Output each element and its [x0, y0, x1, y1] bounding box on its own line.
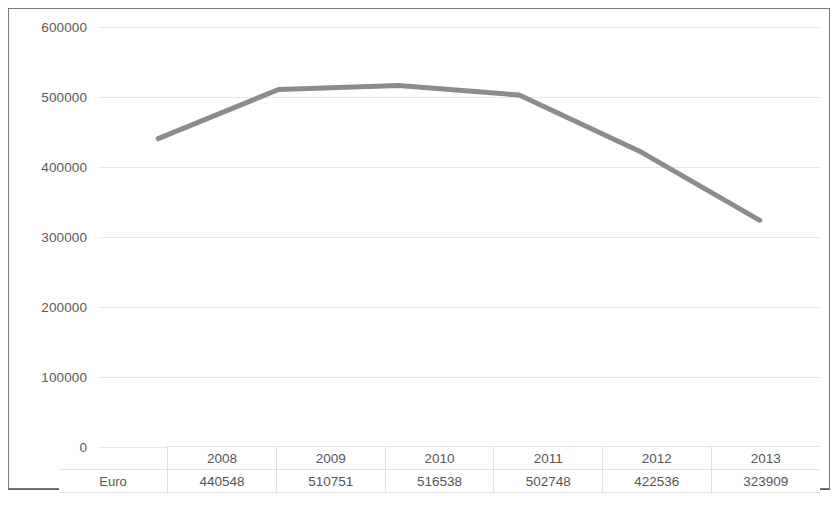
data-table: 2008 2009 2010 2011 2012 2013 Euro 44054… [59, 446, 820, 493]
table-cell-2008: 440548 [168, 470, 277, 493]
table-row-headers: 2008 2009 2010 2011 2012 2013 [59, 447, 820, 470]
table-header-2012: 2012 [603, 447, 712, 470]
table-header-2010: 2010 [385, 447, 494, 470]
y-tick-label-400000: 400000 [41, 160, 87, 175]
table-row-euro: Euro 440548 510751 516538 502748 422536 … [59, 470, 820, 493]
plot-area [98, 12, 820, 444]
y-tick-label-600000: 600000 [41, 20, 87, 35]
y-axis: 600000 500000 400000 300000 200000 10000… [9, 9, 95, 449]
series-line-euro [98, 12, 820, 444]
y-tick-label-200000: 200000 [41, 300, 87, 315]
chart-figure: 600000 500000 400000 300000 200000 10000… [8, 8, 830, 489]
legend-corner-blank [59, 447, 168, 470]
table-header-2009: 2009 [276, 447, 385, 470]
table-header-2008: 2008 [168, 447, 277, 470]
table-series-label-euro: Euro [59, 470, 168, 493]
table-cell-2012: 422536 [603, 470, 712, 493]
table-cell-2009: 510751 [276, 470, 385, 493]
y-tick-label-100000: 100000 [41, 370, 87, 385]
table-cell-2011: 502748 [494, 470, 603, 493]
table-header-2013: 2013 [711, 447, 820, 470]
table-header-2011: 2011 [494, 447, 603, 470]
table-cell-2013: 323909 [711, 470, 820, 493]
y-tick-label-300000: 300000 [41, 230, 87, 245]
y-tick-label-500000: 500000 [41, 90, 87, 105]
table-cell-2010: 516538 [385, 470, 494, 493]
